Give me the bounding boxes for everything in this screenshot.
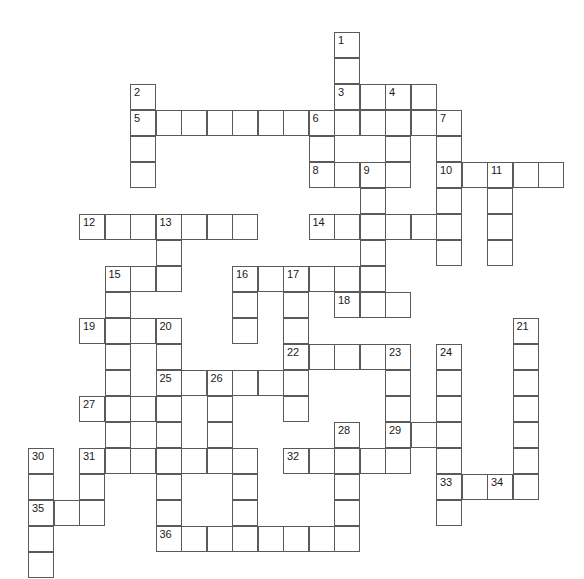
crossword-cell[interactable] [334,214,360,240]
crossword-cell[interactable] [105,344,131,370]
crossword-cell[interactable] [232,370,258,396]
crossword-cell[interactable] [283,396,309,422]
crossword-cell[interactable] [156,110,182,136]
crossword-cell[interactable] [309,136,335,162]
crossword-cell[interactable] [232,474,258,500]
crossword-cell[interactable] [360,110,386,136]
crossword-cell-numbered[interactable]: 22 [283,344,309,370]
crossword-cell[interactable] [258,110,284,136]
crossword-cell[interactable] [309,448,335,474]
crossword-cell[interactable] [385,370,411,396]
crossword-cell[interactable] [283,526,309,552]
crossword-cell[interactable] [105,214,131,240]
crossword-cell[interactable] [232,448,258,474]
crossword-cell[interactable] [28,526,54,552]
crossword-cell[interactable] [232,500,258,526]
crossword-cell[interactable] [513,422,539,448]
crossword-cell[interactable] [436,500,462,526]
crossword-cell-numbered[interactable]: 29 [385,422,411,448]
crossword-cell[interactable] [232,292,258,318]
crossword-cell[interactable] [334,448,360,474]
crossword-cell[interactable] [130,396,156,422]
crossword-cell[interactable] [436,240,462,266]
crossword-cell[interactable] [283,110,309,136]
crossword-cell[interactable] [79,474,105,500]
crossword-cell[interactable] [156,448,182,474]
crossword-cell[interactable] [462,162,488,188]
crossword-cell-numbered[interactable]: 26 [207,370,233,396]
crossword-cell[interactable] [156,240,182,266]
crossword-cell[interactable] [360,84,386,110]
crossword-cell[interactable] [258,266,284,292]
crossword-cell-numbered[interactable]: 19 [79,318,105,344]
crossword-cell[interactable] [309,526,335,552]
crossword-cell-numbered[interactable]: 12 [79,214,105,240]
crossword-cell-numbered[interactable]: 18 [334,292,360,318]
crossword-cell-numbered[interactable]: 27 [79,396,105,422]
crossword-cell[interactable] [156,344,182,370]
crossword-cell-numbered[interactable]: 32 [283,448,309,474]
crossword-cell-numbered[interactable]: 9 [360,162,386,188]
crossword-cell[interactable] [487,214,513,240]
crossword-cell-numbered[interactable]: 2 [130,84,156,110]
crossword-cell[interactable] [360,266,386,292]
crossword-cell-numbered[interactable]: 5 [130,110,156,136]
crossword-cell[interactable] [385,136,411,162]
crossword-cell-numbered[interactable]: 25 [156,370,182,396]
crossword-cell[interactable] [309,266,335,292]
crossword-cell[interactable] [28,552,54,578]
crossword-cell[interactable] [258,526,284,552]
crossword-cell[interactable] [232,526,258,552]
crossword-cell[interactable] [334,474,360,500]
crossword-cell-numbered[interactable]: 3 [334,84,360,110]
crossword-cell-numbered[interactable]: 13 [156,214,182,240]
crossword-cell-numbered[interactable]: 34 [487,474,513,500]
crossword-cell-numbered[interactable]: 6 [309,110,335,136]
crossword-cell[interactable] [411,84,437,110]
crossword-cell[interactable] [360,240,386,266]
crossword-cell[interactable] [258,370,284,396]
crossword-cell[interactable] [487,188,513,214]
crossword-cell[interactable] [385,448,411,474]
crossword-cell[interactable] [130,266,156,292]
crossword-cell[interactable] [360,214,386,240]
crossword-cell[interactable] [360,344,386,370]
crossword-cell[interactable] [156,500,182,526]
crossword-cell[interactable] [207,214,233,240]
crossword-cell[interactable] [105,448,131,474]
crossword-cell[interactable] [513,162,539,188]
crossword-cell[interactable] [283,318,309,344]
crossword-cell[interactable] [436,214,462,240]
crossword-cell[interactable] [283,292,309,318]
crossword-cell-numbered[interactable]: 1 [334,32,360,58]
crossword-cell[interactable] [513,370,539,396]
crossword-cell-numbered[interactable]: 14 [309,214,335,240]
crossword-cell[interactable] [156,396,182,422]
crossword-cell-numbered[interactable]: 36 [156,526,182,552]
crossword-cell[interactable] [181,448,207,474]
crossword-cell[interactable] [334,162,360,188]
crossword-cell-numbered[interactable]: 8 [309,162,335,188]
crossword-cell-numbered[interactable]: 11 [487,162,513,188]
crossword-cell-numbered[interactable]: 21 [513,318,539,344]
crossword-cell[interactable] [130,162,156,188]
crossword-cell[interactable] [385,214,411,240]
crossword-cell[interactable] [105,318,131,344]
crossword-cell[interactable] [538,162,564,188]
crossword-cell[interactable] [360,448,386,474]
crossword-cell[interactable] [411,110,437,136]
crossword-cell-numbered[interactable]: 31 [79,448,105,474]
crossword-cell-numbered[interactable]: 33 [436,474,462,500]
crossword-cell[interactable] [105,422,131,448]
crossword-cell[interactable] [130,214,156,240]
crossword-cell[interactable] [360,292,386,318]
crossword-cell[interactable] [232,214,258,240]
crossword-cell[interactable] [436,422,462,448]
crossword-cell-numbered[interactable]: 28 [334,422,360,448]
crossword-cell[interactable] [385,162,411,188]
crossword-cell[interactable] [156,266,182,292]
crossword-cell[interactable] [309,344,335,370]
crossword-cell[interactable] [105,396,131,422]
crossword-cell[interactable] [487,240,513,266]
crossword-cell[interactable] [28,474,54,500]
